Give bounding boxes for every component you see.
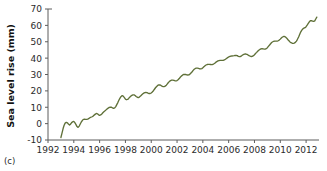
y-tick-label: 60	[31, 21, 43, 31]
y-tick-label: 0	[36, 119, 42, 129]
y-axis-title: Sea level rise (mm)	[5, 24, 16, 128]
y-tick-label: 10	[31, 103, 43, 113]
sea-level-rise-chart: Sea level rise (mm) -10010203040506070 1…	[0, 0, 327, 171]
x-tick-label: 2010	[269, 145, 292, 155]
x-tick-label: 1998	[114, 145, 137, 155]
x-tick-label: 2008	[243, 145, 266, 155]
y-tick-label: 50	[31, 37, 43, 47]
x-tick-label: 1992	[37, 145, 60, 155]
y-tick-label: 30	[31, 70, 43, 80]
y-tick-label: -10	[27, 135, 42, 145]
x-tick-label: 1994	[62, 145, 85, 155]
x-axis-tick-labels: 1992199419961998200020022004200620082010…	[37, 145, 318, 155]
sea-level-line	[61, 17, 317, 137]
x-tick-label: 1996	[88, 145, 111, 155]
x-tick-label: 2000	[140, 145, 163, 155]
x-tick-label: 2004	[191, 145, 214, 155]
x-tick-label: 2012	[295, 145, 318, 155]
x-tick-label: 2002	[166, 145, 189, 155]
y-tick-label: 40	[31, 54, 43, 64]
y-tick-label: 70	[31, 4, 43, 14]
y-tick-label: 20	[31, 86, 43, 96]
panel-label: (c)	[4, 156, 15, 166]
y-axis-tick-labels: -10010203040506070	[27, 4, 42, 145]
x-tick-label: 2006	[217, 145, 240, 155]
